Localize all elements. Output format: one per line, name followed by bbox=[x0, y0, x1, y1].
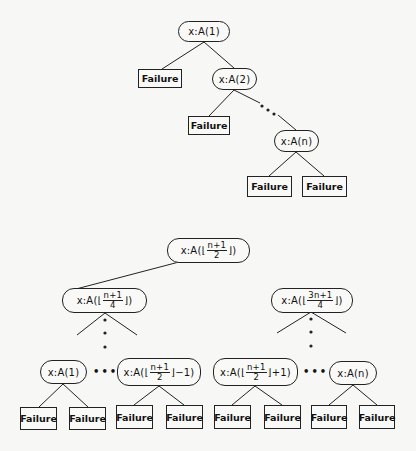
failure-leaf-label: Failure bbox=[214, 412, 251, 423]
decision-node-label: x:A(n) bbox=[281, 136, 312, 147]
fraction: n+12 bbox=[150, 363, 171, 382]
decision-node: x:A(1) bbox=[178, 21, 230, 42]
label-prefix: x:A(⌊ bbox=[124, 367, 149, 378]
fraction-denominator: 2 bbox=[252, 373, 260, 382]
fraction-denominator: 2 bbox=[156, 373, 164, 382]
tree-edge bbox=[329, 385, 353, 405]
vertical-ellipsis-dot bbox=[309, 344, 312, 347]
vertical-ellipsis-dot bbox=[309, 330, 312, 333]
tree-edge bbox=[76, 262, 179, 289]
label-prefix: x:A(⌊ bbox=[181, 245, 206, 256]
failure-leaf-label: Failure bbox=[142, 73, 179, 84]
label-suffix: ⌋) bbox=[124, 295, 132, 306]
decision-node: x:A(1) bbox=[40, 360, 87, 384]
ellipsis-dot bbox=[266, 108, 269, 111]
vertical-ellipsis-dot bbox=[103, 331, 106, 334]
fraction: 3n+14 bbox=[307, 291, 333, 310]
failure-leaf: Failure bbox=[264, 405, 301, 429]
failure-leaf-label: Failure bbox=[69, 413, 106, 424]
failure-leaf-label: Failure bbox=[306, 181, 343, 192]
failure-leaf-label: Failure bbox=[116, 412, 153, 423]
failure-leaf: Failure bbox=[20, 407, 57, 430]
failure-leaf-label: Failure bbox=[359, 412, 396, 423]
tree-edge bbox=[204, 42, 234, 68]
failure-leaf-label: Failure bbox=[311, 412, 348, 423]
fraction: n+12 bbox=[246, 363, 267, 382]
fraction-numerator: n+1 bbox=[246, 363, 267, 373]
decision-node-label: x:A(1) bbox=[188, 26, 220, 37]
failure-leaf: Failure bbox=[166, 405, 203, 429]
decision-node-label: x:A(2) bbox=[219, 74, 251, 85]
fraction: n+14 bbox=[103, 291, 124, 310]
label-prefix: x:A(⌊ bbox=[281, 295, 306, 306]
tree-edge bbox=[278, 115, 296, 130]
label-suffix: ⌋+1) bbox=[268, 367, 291, 378]
tree-edge bbox=[105, 313, 137, 335]
failure-leaf: Failure bbox=[302, 176, 347, 197]
failure-leaf: Failure bbox=[188, 116, 230, 135]
decision-node-label: x:A(1) bbox=[48, 367, 80, 378]
failure-leaf-label: Failure bbox=[264, 412, 301, 423]
failure-leaf: Failure bbox=[69, 407, 106, 430]
decision-node: x:A(⌊n+12⌋−1) bbox=[117, 358, 201, 386]
label-suffix: ⌋−1) bbox=[171, 367, 194, 378]
failure-leaf: Failure bbox=[359, 405, 395, 429]
decision-node-label: x:A(n) bbox=[337, 368, 368, 379]
fraction-denominator: 4 bbox=[317, 301, 325, 310]
tree-edge bbox=[234, 90, 260, 103]
tree-edge bbox=[159, 386, 184, 405]
vertical-ellipsis-dot bbox=[309, 317, 312, 320]
tree-edge bbox=[134, 386, 159, 405]
tree-edge bbox=[353, 385, 377, 405]
failure-leaf: Failure bbox=[214, 405, 251, 429]
horizontal-ellipsis: ••• bbox=[93, 366, 118, 377]
tree-edge bbox=[277, 312, 311, 333]
fraction: n+12 bbox=[207, 241, 228, 260]
tree-edge bbox=[269, 152, 296, 176]
decision-node: x:A(n) bbox=[274, 130, 319, 152]
tree-edge bbox=[39, 384, 63, 407]
decision-node: x:A(⌊n+14⌋) bbox=[62, 288, 147, 313]
tree-edge bbox=[63, 384, 88, 407]
fraction-denominator: 4 bbox=[109, 301, 117, 310]
label-prefix: x:A(⌊ bbox=[220, 367, 245, 378]
fraction-denominator: 2 bbox=[213, 251, 221, 260]
ellipsis-dot bbox=[260, 104, 263, 107]
fraction-numerator: n+1 bbox=[150, 363, 171, 373]
vertical-ellipsis-dot bbox=[103, 345, 106, 348]
tree-edge bbox=[232, 386, 255, 405]
horizontal-ellipsis: ••• bbox=[303, 366, 328, 377]
tree-edge bbox=[209, 90, 234, 116]
failure-leaf: Failure bbox=[116, 405, 153, 429]
tree-edge bbox=[162, 42, 204, 69]
ellipsis-dot bbox=[272, 112, 275, 115]
failure-leaf-label: Failure bbox=[191, 120, 228, 131]
label-prefix: x:A(⌊ bbox=[77, 295, 102, 306]
vertical-ellipsis-dot bbox=[103, 318, 106, 321]
label-suffix: ⌋) bbox=[228, 245, 236, 256]
tree-edge bbox=[296, 152, 324, 176]
failure-leaf-label: Failure bbox=[20, 413, 57, 424]
decision-node: x:A(2) bbox=[212, 68, 257, 90]
decision-node: x:A(⌊3n+14⌋) bbox=[271, 288, 353, 313]
decision-node: x:A(n) bbox=[329, 361, 377, 385]
root-decision-node: x:A(⌊n+12⌋) bbox=[167, 238, 250, 263]
failure-leaf-label: Failure bbox=[251, 181, 288, 192]
failure-leaf-label: Failure bbox=[166, 412, 203, 423]
failure-leaf: Failure bbox=[138, 69, 182, 88]
failure-leaf: Failure bbox=[247, 176, 292, 197]
failure-leaf: Failure bbox=[311, 405, 347, 429]
tree-edge bbox=[77, 313, 105, 335]
tree-edge bbox=[311, 312, 346, 333]
decision-node: x:A(⌊n+12⌋+1) bbox=[213, 358, 298, 386]
tree-edge bbox=[255, 386, 282, 405]
label-suffix: ⌋) bbox=[334, 295, 342, 306]
